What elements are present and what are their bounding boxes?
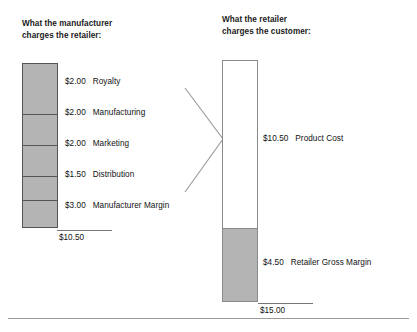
row-amount-manufacturer-margin: $3.00 — [65, 201, 86, 210]
bar-segment-product-cost — [223, 61, 257, 229]
left-total-label: $10.50 — [59, 233, 84, 243]
left-total-rule — [57, 230, 112, 231]
row-label-manufacturer-margin: $3.00Manufacturer Margin — [65, 201, 169, 211]
right-total-label: $15.00 — [260, 306, 285, 316]
row-label-product-cost: $10.50Product Cost — [263, 134, 343, 144]
manufacturer-cost-bar — [22, 63, 58, 228]
row-label-manufacturing: $2.00Manufacturing — [65, 108, 145, 118]
row-amount-product-cost: $10.50 — [263, 134, 288, 143]
bar-segment-manufacturing — [23, 115, 57, 146]
row-text-manufacturing: Manufacturing — [93, 108, 146, 117]
row-amount-manufacturing: $2.00 — [65, 108, 86, 117]
row-text-royalty: Royalty — [93, 77, 121, 86]
retailer-price-bar — [222, 60, 258, 302]
bar-segment-manufacturer-margin — [23, 201, 57, 227]
bar-segment-distribution — [23, 177, 57, 200]
row-text-retailer-gross-margin: Retailer Gross Margin — [291, 258, 372, 267]
bar-segment-royalty — [23, 64, 57, 115]
row-label-royalty: $2.00Royalty — [65, 77, 120, 87]
row-label-distribution: $1.50Distribution — [65, 170, 134, 180]
row-amount-royalty: $2.00 — [65, 77, 86, 86]
bar-segment-retailer-gross-margin — [223, 229, 257, 301]
left-panel-heading: What the manufacturer charges the retail… — [22, 18, 112, 41]
row-amount-marketing: $2.00 — [65, 139, 86, 148]
bottom-divider — [8, 318, 409, 319]
chevron-right-arrow-icon — [183, 86, 227, 194]
row-amount-retailer-gross-margin: $4.50 — [263, 258, 284, 267]
row-text-manufacturer-margin: Manufacturer Margin — [93, 201, 170, 210]
row-text-distribution: Distribution — [93, 170, 135, 179]
right-panel-heading: What the retailer charges the customer: — [222, 14, 311, 37]
row-amount-distribution: $1.50 — [65, 170, 86, 179]
right-total-rule — [258, 303, 313, 304]
row-label-marketing: $2.00Marketing — [65, 139, 129, 149]
bar-segment-marketing — [23, 146, 57, 177]
row-label-retailer-gross-margin: $4.50Retailer Gross Margin — [263, 258, 371, 268]
row-text-marketing: Marketing — [93, 139, 129, 148]
row-text-product-cost: Product Cost — [295, 134, 343, 143]
diagram-canvas: What the manufacturer charges the retail… — [0, 0, 417, 332]
